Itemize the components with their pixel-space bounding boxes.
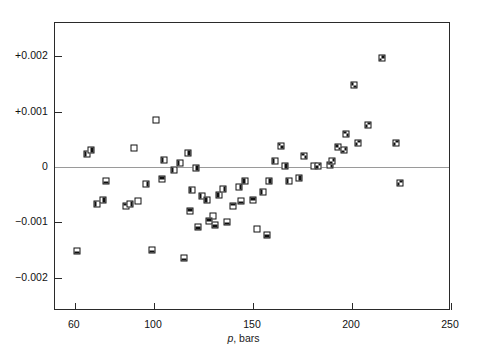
- data-point: [152, 116, 159, 123]
- data-point: [341, 147, 348, 154]
- data-point: [301, 152, 308, 159]
- y-tick-label: −0.001: [15, 215, 48, 227]
- x-tick: [352, 303, 353, 310]
- data-point: [180, 255, 187, 262]
- data-point: [230, 202, 237, 209]
- data-point: [277, 142, 284, 149]
- x-axis-title: p, bars: [0, 332, 487, 344]
- data-point: [354, 139, 361, 146]
- data-point: [224, 219, 231, 226]
- data-point: [396, 179, 403, 186]
- data-point: [127, 200, 134, 207]
- data-point: [87, 147, 94, 154]
- data-point: [350, 82, 357, 89]
- data-point: [143, 180, 150, 187]
- data-point: [343, 130, 350, 137]
- data-point: [194, 223, 201, 230]
- x-tick-label: 100: [144, 318, 162, 330]
- y-tick-label: +0.002: [15, 49, 48, 61]
- data-point: [265, 178, 272, 185]
- chart-figure: Keyes, Smith, and Gerry 306–313°320–322°…: [0, 0, 487, 354]
- data-point: [271, 158, 278, 165]
- x-tick: [75, 303, 76, 310]
- data-point: [135, 198, 142, 205]
- data-point: [186, 208, 193, 215]
- data-point: [103, 178, 110, 185]
- data-point: [238, 198, 245, 205]
- data-point: [378, 55, 385, 62]
- data-point: [242, 178, 249, 185]
- x-tick: [451, 303, 452, 310]
- data-point: [364, 121, 371, 128]
- x-tick: [253, 303, 254, 310]
- y-tick-label: −0.002: [15, 271, 48, 283]
- data-point: [99, 197, 106, 204]
- y-tick: [55, 56, 62, 57]
- x-tick: [154, 303, 155, 310]
- data-point: [192, 165, 199, 172]
- x-tick-label: 250: [441, 318, 459, 330]
- data-point: [184, 149, 191, 156]
- x-tick-label: 60: [68, 318, 80, 330]
- data-point: [160, 157, 167, 164]
- data-point: [250, 197, 257, 204]
- data-point: [329, 158, 336, 165]
- y-tick: [55, 278, 62, 279]
- data-point: [176, 159, 183, 166]
- y-tick: [55, 222, 62, 223]
- data-point: [73, 248, 80, 255]
- data-point: [206, 218, 213, 225]
- y-tick-label: +0.001: [15, 105, 48, 117]
- data-point: [149, 247, 156, 254]
- data-point: [236, 183, 243, 190]
- data-point: [220, 186, 227, 193]
- data-point: [295, 175, 302, 182]
- data-point: [259, 189, 266, 196]
- data-point: [253, 226, 260, 233]
- data-point: [285, 178, 292, 185]
- data-point: [188, 187, 195, 194]
- y-tick-label: 0: [42, 160, 48, 172]
- y-tick: [55, 112, 62, 113]
- data-point: [170, 167, 177, 174]
- data-point: [158, 176, 165, 183]
- plot-area: [54, 22, 450, 310]
- data-point: [392, 139, 399, 146]
- data-point: [204, 197, 211, 204]
- data-point: [131, 144, 138, 151]
- x-tick-label: 200: [342, 318, 360, 330]
- data-point: [263, 231, 270, 238]
- zero-reference-line: [55, 167, 449, 168]
- data-point: [315, 162, 322, 169]
- data-point: [281, 162, 288, 169]
- x-tick-label: 150: [243, 318, 261, 330]
